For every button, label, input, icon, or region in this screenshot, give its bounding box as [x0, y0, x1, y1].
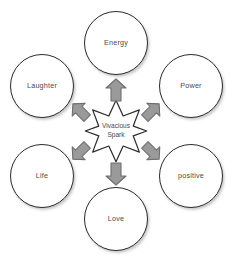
center-label-line1: Vivacious [102, 122, 130, 131]
node-circle-life[interactable]: Life [10, 144, 74, 208]
block-arrow-down-icon [105, 162, 127, 186]
node-label-laughter: Laughter [27, 82, 57, 90]
node-circle-love[interactable]: Love [84, 187, 148, 251]
node-label-power: Power [180, 82, 201, 90]
node-circle-positive[interactable]: positive [159, 144, 223, 208]
node-circle-laughter[interactable]: Laughter [10, 54, 74, 118]
node-label-energy: Energy [104, 39, 128, 47]
node-label-positive: positive [178, 172, 204, 180]
node-label-life: Life [36, 172, 48, 180]
node-label-love: Love [108, 215, 124, 223]
node-circle-energy[interactable]: Energy [84, 11, 148, 75]
block-arrow-up-icon [105, 78, 127, 102]
node-circle-power[interactable]: Power [159, 54, 223, 118]
center-label-line2: Spark [107, 131, 124, 140]
arrow-up-to-energy [105, 78, 127, 102]
diagram-canvas: Energy Power positive Love Life Laughter… [0, 0, 232, 265]
arrow-down-to-love [105, 162, 127, 186]
